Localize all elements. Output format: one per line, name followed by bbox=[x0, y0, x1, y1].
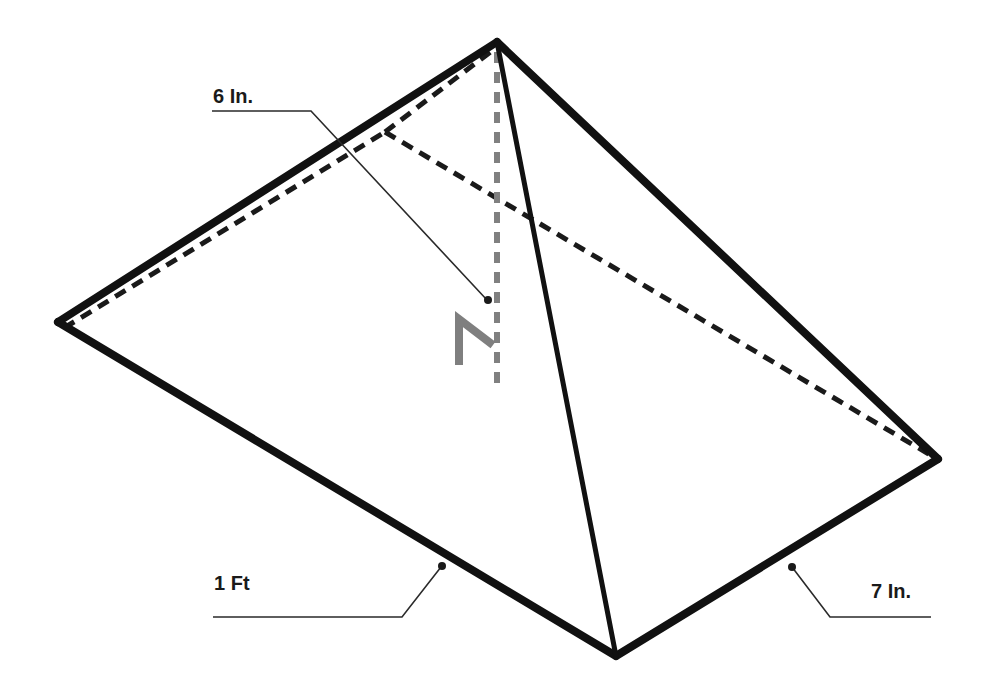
length-label: 1 Ft bbox=[214, 573, 250, 593]
leader-dot-length bbox=[438, 562, 446, 570]
edge-left-front bbox=[58, 322, 616, 656]
hidden-edge-back-right bbox=[385, 132, 932, 456]
pyramid-diagram: 6 In. 1 Ft 7 In. bbox=[0, 0, 983, 689]
edge-front-right bbox=[616, 459, 938, 656]
leader-dot-height bbox=[484, 296, 492, 304]
edge-apex-left bbox=[58, 42, 497, 322]
leader-lines bbox=[212, 111, 931, 617]
hidden-edge-left-back bbox=[64, 132, 385, 328]
height-label: 6 In. bbox=[213, 86, 253, 106]
hidden-edge-back-apex bbox=[385, 50, 493, 132]
right-angle-marker bbox=[459, 319, 493, 365]
leader-dots bbox=[438, 296, 796, 571]
width-label: 7 In. bbox=[871, 581, 911, 601]
leader-dot-width bbox=[788, 563, 796, 571]
